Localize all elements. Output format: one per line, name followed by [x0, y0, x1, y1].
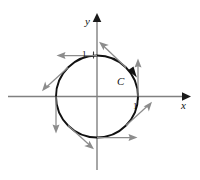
- y-axis-arrowhead: [93, 13, 102, 22]
- tangent-vector-180: [53, 97, 60, 134]
- figure-canvas: x y 1 1 C: [0, 0, 200, 180]
- tangent-vector-90-head: [57, 52, 66, 59]
- tangent-vector-180-head: [53, 125, 60, 134]
- tangent-vector-90: [57, 52, 98, 59]
- y-axis: [93, 13, 102, 170]
- tangent-vector-270-head: [129, 134, 138, 141]
- tangent-vector-315-head: [144, 102, 152, 112]
- curve-label-c: C: [117, 75, 125, 87]
- tangent-vector-315: [126, 102, 152, 126]
- tangent-vector-0: [135, 59, 142, 97]
- tangent-vector-45: [99, 42, 126, 68]
- figure-svg: x y 1 1 C: [0, 0, 200, 180]
- tangent-vector-135: [42, 68, 68, 92]
- x-axis: [8, 92, 191, 101]
- tangent-vector-0-head: [135, 59, 142, 68]
- x-axis-label: x: [180, 99, 186, 111]
- tangent-vector-270: [97, 134, 138, 141]
- tangent-vector-135-head: [42, 81, 50, 91]
- x-tick-label-1: 1: [133, 101, 138, 111]
- y-axis-label: y: [84, 15, 90, 27]
- y-tick-label-1: 1: [82, 49, 87, 59]
